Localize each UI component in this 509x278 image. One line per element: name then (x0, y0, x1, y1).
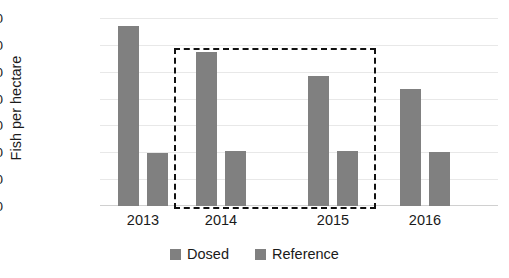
chart-legend: DosedReference (0, 246, 509, 262)
y-axis-tick-label: 0 (0, 199, 3, 214)
legend-label: Dosed (187, 246, 229, 262)
y-axis-title: Fish per hectare (4, 0, 28, 215)
gridline (100, 125, 498, 126)
legend-swatch-icon (170, 249, 181, 260)
bar-dosed-2016 (400, 89, 421, 207)
gridline (100, 99, 498, 100)
legend-item-dosed[interactable]: Dosed (170, 246, 229, 262)
y-axis-tick-label: 4,000 (0, 145, 3, 160)
y-axis-tick-label: 8,000 (0, 91, 3, 106)
bar-dosed-2013 (118, 26, 139, 206)
legend-swatch-icon (255, 249, 266, 260)
y-axis-tick-label: 10,000 (0, 64, 3, 79)
bar-reference-2015 (337, 151, 358, 206)
y-axis-tick-label: 6,000 (0, 118, 3, 133)
x-axis-label-2016: 2016 (409, 212, 441, 228)
x-axis-label-2014: 2014 (205, 212, 237, 228)
gridline (100, 72, 498, 73)
y-axis-tick-label: 14,000 (0, 11, 3, 26)
y-axis-tick-label: 2,000 (0, 172, 3, 187)
bar-reference-2016 (429, 152, 450, 206)
bar-reference-2014 (225, 151, 246, 206)
gridline (100, 18, 498, 19)
bar-dosed-2014 (196, 52, 217, 206)
bar-dosed-2015 (308, 76, 329, 206)
legend-label: Reference (272, 246, 339, 262)
x-axis-label-2013: 2013 (127, 212, 159, 228)
legend-item-reference[interactable]: Reference (255, 246, 339, 262)
x-axis-label-2015: 2015 (317, 212, 349, 228)
y-axis-title-label: Fish per hectare (8, 55, 24, 160)
bar-reference-2013 (147, 153, 168, 206)
y-axis-tick-label: 12,000 (0, 37, 3, 52)
plot-area (100, 18, 498, 206)
bar-chart: Fish per hectare 02,0004,0006,0008,00010… (0, 0, 509, 278)
gridline (100, 45, 498, 46)
